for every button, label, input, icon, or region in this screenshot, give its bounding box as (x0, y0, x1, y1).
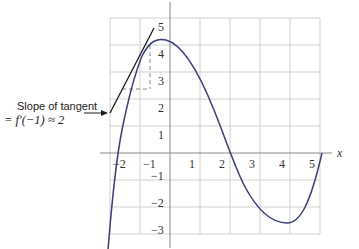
grid (110, 18, 320, 234)
y-tick-label: −3 (151, 223, 164, 237)
x-tick-label: 5 (309, 157, 315, 171)
x-tick-label: 1 (189, 157, 195, 171)
x-tick-label: 3 (249, 157, 255, 171)
x-tick-label: 4 (279, 157, 285, 171)
y-tick-label: 3 (158, 74, 164, 88)
y-tick-labels: 5 4 3 2 1 −1 −2 −3 (151, 20, 164, 237)
y-tick-label: −2 (151, 196, 164, 210)
y-tick-label: −1 (151, 169, 164, 183)
x-axis-label: x (336, 146, 343, 160)
x-tick-label: −2 (113, 157, 126, 171)
y-tick-label: 5 (158, 20, 164, 34)
y-tick-label: 1 (158, 128, 164, 142)
x-tick-labels: −2 −1 1 2 3 4 5 (113, 157, 315, 171)
tangent-line (110, 28, 154, 113)
y-tick-label: 2 (158, 101, 164, 115)
annotation-label: Slope of tangent (17, 100, 97, 112)
annotation-formula: = f′(−1) ≈ 2 (4, 113, 64, 128)
y-tick-label: 4 (158, 47, 164, 61)
x-tick-label: 2 (219, 157, 225, 171)
